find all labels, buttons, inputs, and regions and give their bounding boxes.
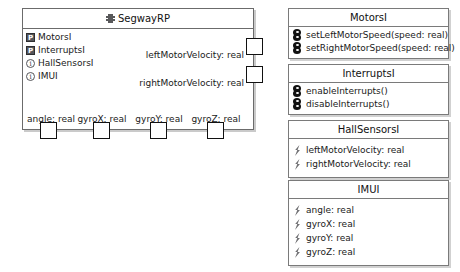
- port-rightmotorvelocity[interactable]: [246, 66, 263, 83]
- attribute-row[interactable]: angle: real: [289, 203, 448, 217]
- operation-label: setLeftMotorSpeed(speed: real): [306, 29, 448, 42]
- port-leftmotorvelocity[interactable]: [246, 38, 263, 55]
- attribute-row[interactable]: gyroX: real: [289, 217, 448, 231]
- attribute-row[interactable]: leftMotorVelocity: real: [289, 143, 448, 157]
- operation-icon: [293, 29, 302, 42]
- interface-panel-members: angle: real gyroX: real gyroY: real gyro…: [289, 199, 448, 265]
- component-title-bar: SegwayRP: [23, 9, 253, 29]
- operation-icon: [293, 85, 302, 98]
- attribute-row[interactable]: rightMotorVelocity: real: [289, 157, 448, 171]
- attribute-label: angle: real: [306, 203, 354, 217]
- operation-icon: [293, 42, 302, 55]
- port-angle[interactable]: [40, 122, 57, 139]
- operation-label: enableInterrupts(): [306, 85, 388, 98]
- port-gyroy[interactable]: [150, 122, 167, 139]
- port-gyroz[interactable]: [207, 122, 224, 139]
- attribute-icon: [293, 145, 302, 156]
- attribute-label: gyroZ: real: [306, 245, 355, 259]
- interface-entry-label: MotorsI: [38, 31, 71, 44]
- operation-icon: [293, 98, 302, 111]
- interface-entry-imui[interactable]: i IMUI: [26, 70, 130, 83]
- component-name: SegwayRP: [118, 13, 170, 24]
- component-icon: [106, 14, 115, 23]
- port-gyrox[interactable]: [93, 122, 110, 139]
- operation-row[interactable]: disableInterrupts(): [289, 98, 448, 111]
- attribute-label: gyroY: real: [306, 231, 353, 245]
- required-interface-icon: i: [26, 59, 35, 68]
- operation-row[interactable]: setRightMotorSpeed(speed: real): [289, 42, 448, 55]
- attribute-label: leftMotorVelocity: real: [306, 143, 404, 157]
- interface-panel-hallsensorsi[interactable]: HallSensorsI leftMotorVelocity: real rig…: [288, 120, 449, 178]
- port-label-leftmotorvelocity: leftMotorVelocity: real: [146, 49, 244, 61]
- operation-label: setRightMotorSpeed(speed: real): [306, 42, 455, 55]
- attribute-icon: [293, 205, 302, 216]
- interface-entry-label: HallSensorsI: [38, 57, 93, 70]
- attribute-icon: [293, 233, 302, 244]
- interface-panel-title: InterruptsI: [289, 65, 448, 83]
- interface-panel-members: leftMotorVelocity: real rightMotorVeloci…: [289, 139, 448, 177]
- operation-label: disableInterrupts(): [306, 98, 390, 111]
- provided-interface-icon: P: [26, 33, 35, 42]
- interface-panel-title: HallSensorsI: [289, 121, 448, 139]
- attribute-label: rightMotorVelocity: real: [306, 157, 411, 171]
- attribute-row[interactable]: gyroY: real: [289, 231, 448, 245]
- interface-entry-interruptsi[interactable]: P InterruptsI: [26, 44, 130, 57]
- interface-entry-motorsi[interactable]: P MotorsI: [26, 31, 130, 44]
- provided-interface-icon: P: [26, 46, 35, 55]
- interface-entry-label: IMUI: [38, 70, 58, 83]
- attribute-icon: [293, 159, 302, 170]
- attribute-label: gyroX: real: [306, 217, 355, 231]
- interface-panel-members: setLeftMotorSpeed(speed: real) setRightM…: [289, 27, 448, 58]
- interface-entry-hallsensorsi[interactable]: i HallSensorsI: [26, 57, 130, 70]
- component-interface-list: P MotorsI P InterruptsI i HallSensorsI i…: [26, 31, 130, 83]
- attribute-icon: [293, 247, 302, 258]
- interface-entry-label: InterruptsI: [38, 44, 85, 57]
- component-segwayrp[interactable]: SegwayRP P MotorsI P InterruptsI i HallS…: [22, 8, 254, 130]
- interface-panel-title: IMUI: [289, 181, 448, 199]
- interface-panel-imui[interactable]: IMUI angle: real gyroX: real gyroY: real: [288, 180, 449, 266]
- operation-row[interactable]: setLeftMotorSpeed(speed: real): [289, 29, 448, 42]
- interface-panel-title: MotorsI: [289, 9, 448, 27]
- operation-row[interactable]: enableInterrupts(): [289, 85, 448, 98]
- interface-panel-motorsi[interactable]: MotorsI setLeftMotorSpeed(speed: real) s…: [288, 8, 449, 59]
- required-interface-icon: i: [26, 72, 35, 81]
- interface-panel-members: enableInterrupts() disableInterrupts(): [289, 83, 448, 114]
- attribute-row[interactable]: gyroZ: real: [289, 245, 448, 259]
- attribute-icon: [293, 219, 302, 230]
- port-label-rightmotorvelocity: rightMotorVelocity: real: [139, 77, 244, 89]
- interface-panel-interruptsi[interactable]: InterruptsI enableInterrupts() disableIn…: [288, 64, 449, 115]
- diagram-canvas: SegwayRP P MotorsI P InterruptsI i HallS…: [0, 0, 460, 272]
